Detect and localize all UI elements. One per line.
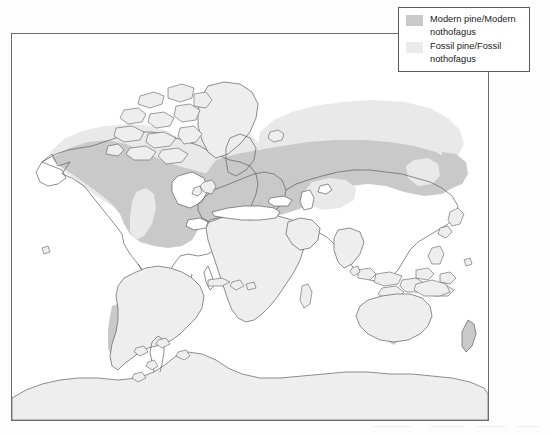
scan-artifact [430, 426, 464, 427]
scan-artifact [476, 426, 506, 427]
world-map: .land { fill:#eeeeee; stroke:#5f5f5f; st… [11, 33, 489, 421]
legend-item-modern: Modern pine/Modern nothofagus [406, 13, 527, 38]
modern-range-swatch [406, 15, 423, 26]
scan-artifact [516, 426, 540, 427]
map-vector: .land { fill:#eeeeee; stroke:#5f5f5f; st… [12, 34, 488, 420]
legend-item-modern-label: Modern pine/Modern nothofagus [430, 13, 527, 38]
legend-item-fossil: Fossil pine/Fossil nothofagus [406, 40, 527, 65]
fossil-range-swatch [406, 42, 423, 53]
scan-artifact [372, 426, 412, 427]
figure-screenshot: .land { fill:#eeeeee; stroke:#5f5f5f; st… [0, 0, 550, 435]
map-legend: Modern pine/Modern nothofagus Fossil pin… [398, 7, 530, 72]
legend-item-fossil-label: Fossil pine/Fossil nothofagus [430, 40, 527, 65]
